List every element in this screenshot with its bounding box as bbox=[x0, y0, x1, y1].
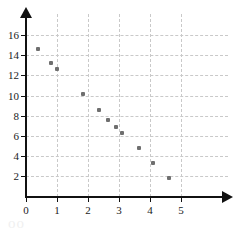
y-axis-line bbox=[25, 16, 27, 198]
y-axis-tick-label: 2 bbox=[0, 170, 19, 182]
data-point bbox=[55, 67, 59, 71]
y-axis-tick bbox=[21, 176, 26, 177]
x-axis-line bbox=[26, 196, 224, 198]
y-axis-tick bbox=[21, 55, 26, 56]
data-point bbox=[97, 108, 101, 112]
y-axis-tick-label: 8 bbox=[0, 110, 19, 122]
x-axis-tick-label: 3 bbox=[109, 204, 129, 216]
data-point bbox=[36, 47, 40, 51]
gridline-vertical bbox=[119, 14, 120, 197]
data-point bbox=[114, 125, 118, 129]
gridline-horizontal bbox=[26, 156, 228, 157]
y-axis-tick bbox=[21, 116, 26, 117]
y-axis-tick-label: 14 bbox=[0, 49, 19, 61]
x-axis-tick bbox=[57, 197, 58, 202]
x-axis-tick-label: 4 bbox=[140, 204, 160, 216]
y-axis-tick-label: 10 bbox=[0, 90, 19, 102]
plot-area bbox=[26, 14, 228, 197]
y-axis-tick bbox=[21, 35, 26, 36]
data-point bbox=[137, 146, 141, 150]
x-axis-tick bbox=[150, 197, 151, 202]
x-axis-arrowhead-icon bbox=[222, 191, 233, 203]
gridline-horizontal bbox=[26, 136, 228, 137]
gridline-vertical bbox=[57, 14, 58, 197]
gridline-horizontal bbox=[26, 176, 228, 177]
gridline-horizontal bbox=[26, 96, 228, 97]
gridline-vertical bbox=[88, 14, 89, 197]
y-axis-tick-label: 6 bbox=[0, 130, 19, 142]
y-axis-tick bbox=[21, 96, 26, 97]
y-axis-tick-label: 16 bbox=[0, 29, 19, 41]
x-axis-tick-label: 5 bbox=[171, 204, 191, 216]
gridline-vertical bbox=[150, 14, 151, 197]
watermark: oo bbox=[8, 215, 25, 231]
y-axis-tick-label: 12 bbox=[0, 69, 19, 81]
y-axis-tick bbox=[21, 136, 26, 137]
y-axis-tick bbox=[21, 75, 26, 76]
data-point bbox=[151, 161, 155, 165]
data-point bbox=[120, 131, 124, 135]
x-axis-tick bbox=[26, 197, 27, 202]
gridline-vertical bbox=[181, 14, 182, 197]
y-axis-tick-label: 4 bbox=[0, 150, 19, 162]
scatter-plot-figure: 012345246810121416 oo bbox=[0, 0, 237, 231]
data-point bbox=[106, 118, 110, 122]
gridline-horizontal bbox=[26, 55, 228, 56]
x-axis-tick-label: 1 bbox=[47, 204, 67, 216]
gridline-horizontal bbox=[26, 35, 228, 36]
data-point bbox=[49, 61, 53, 65]
x-axis-tick bbox=[88, 197, 89, 202]
data-point bbox=[167, 176, 171, 180]
gridline-horizontal bbox=[26, 75, 228, 76]
x-axis-tick bbox=[181, 197, 182, 202]
gridline-horizontal bbox=[26, 116, 228, 117]
y-axis-arrowhead-icon bbox=[20, 7, 32, 18]
x-axis-tick bbox=[119, 197, 120, 202]
x-axis-tick-label: 2 bbox=[78, 204, 98, 216]
y-axis-tick bbox=[21, 156, 26, 157]
